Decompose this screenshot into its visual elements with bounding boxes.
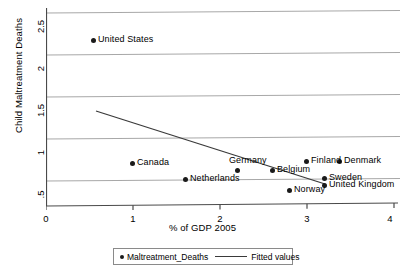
- chart-legend: Maltreatment_Deaths Fitted values: [113, 248, 293, 265]
- data-label-germany: Germany: [229, 155, 267, 165]
- scatter-chart-figure: Child Maltreatment Deaths % of GDP 2005 …: [0, 0, 405, 275]
- data-point-netherlands: [183, 177, 188, 182]
- x-axis-line: [46, 203, 398, 206]
- legend-entry-fitted-values: Fitted values: [208, 252, 299, 262]
- gridline-2_5: [46, 11, 400, 14]
- data-point-belgium: [270, 168, 275, 173]
- x-tick-label-2: 2: [210, 213, 230, 224]
- gridline-1: [46, 137, 400, 140]
- legend-label-maltreatment-deaths: Maltreatment_Deaths: [127, 252, 208, 262]
- data-label-finland: Finland: [311, 155, 341, 165]
- dot-marker-icon: [120, 255, 124, 259]
- y-tick-label-3: 2: [35, 56, 46, 82]
- x-tick-label-3: 3: [297, 213, 317, 224]
- data-point-canada: [130, 161, 135, 166]
- data-label-canada: Canada: [137, 157, 169, 167]
- data-point-united-states: [91, 38, 96, 43]
- gridline-2: [46, 53, 400, 56]
- line-marker-icon: [215, 256, 247, 257]
- data-label-belgium: Belgium: [277, 164, 310, 174]
- data-point-sweden: [322, 176, 327, 181]
- x-tick-label-4: 4: [380, 213, 400, 224]
- data-label-united-kingdom: United Kingdom: [329, 179, 394, 189]
- x-axis-title: % of GDP 2005: [0, 222, 405, 233]
- legend-entry-maltreatment-deaths: Maltreatment_Deaths: [120, 252, 208, 262]
- y-tick-label-1: 1: [35, 140, 46, 166]
- data-label-norway: Norway: [294, 184, 325, 194]
- plot-area: United States Canada Netherlands Germany…: [46, 8, 400, 210]
- y-axis-title: Child Maltreatment Deaths: [13, 0, 24, 156]
- data-label-denmark: Denmark: [344, 155, 381, 165]
- x-tick-label-0: 0: [36, 213, 56, 224]
- data-label-netherlands: Netherlands: [190, 173, 240, 183]
- legend-label-fitted-values: Fitted values: [251, 252, 299, 262]
- y-tick-label-0: .5: [35, 182, 46, 208]
- y-tick-label-4: 2.5: [35, 14, 46, 40]
- x-tick-label-1: 1: [123, 213, 143, 224]
- gridline-1_5: [46, 95, 400, 98]
- data-label-united-states: United States: [98, 34, 153, 44]
- y-tick-label-2: 1.5: [35, 98, 46, 124]
- data-point-norway: [287, 188, 292, 193]
